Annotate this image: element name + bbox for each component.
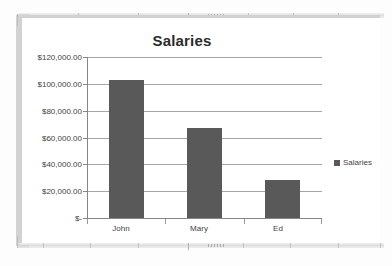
axis-tick — [83, 138, 87, 139]
axis-tick — [83, 191, 87, 192]
axis-tick — [83, 164, 87, 165]
category-label-john: John — [91, 224, 151, 233]
plot-area — [87, 57, 322, 218]
bar-ed[interactable] — [265, 180, 300, 218]
legend-swatch-salaries — [334, 160, 340, 166]
y-tick-label: $60,000.00 — [20, 133, 82, 142]
axis-tick — [83, 84, 87, 85]
chart-plot-container: Salaries $120,000.00 $100,000.00 $80,000… — [22, 18, 380, 242]
category-tick — [165, 219, 166, 224]
legend-label-salaries: Salaries — [343, 158, 372, 167]
chart-title: Salaries — [22, 32, 342, 49]
value-axis-line — [87, 57, 88, 219]
bar-mary[interactable] — [187, 128, 222, 218]
bar-john[interactable] — [109, 80, 144, 218]
ruler-strip-bottom — [18, 243, 384, 248]
category-label-mary: Mary — [169, 224, 229, 233]
chart-screenshot: Salaries $120,000.00 $100,000.00 $80,000… — [0, 0, 392, 266]
y-tick-label: $20,000.00 — [20, 187, 82, 196]
category-label-ed: Ed — [248, 224, 308, 233]
chart-legend: Salaries — [334, 158, 372, 167]
y-tick-label: $80,000.00 — [20, 106, 82, 115]
y-tick-label: $- — [20, 214, 82, 223]
y-tick-label: $100,000.00 — [20, 79, 82, 88]
y-tick-label: $40,000.00 — [20, 160, 82, 169]
gridline — [87, 57, 322, 58]
category-tick — [321, 219, 322, 224]
category-axis-line — [87, 218, 322, 219]
category-tick — [244, 219, 245, 224]
axis-tick — [83, 111, 87, 112]
category-tick — [87, 219, 88, 224]
y-tick-label: $120,000.00 — [20, 53, 82, 62]
y-axis-tick-labels: $120,000.00 $100,000.00 $80,000.00 $60,0… — [22, 57, 82, 218]
axis-tick — [83, 57, 87, 58]
